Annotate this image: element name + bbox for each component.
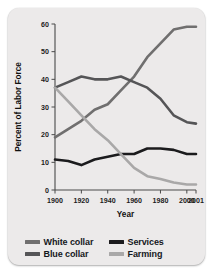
y-axis-title: Percent of Labor Force (14, 62, 23, 152)
legend-item-services[interactable]: Services (109, 237, 189, 247)
y-tick-label: 20 (41, 131, 49, 139)
series-line-services (55, 149, 196, 166)
y-tick-label: 60 (41, 21, 49, 29)
chart-legend: White collarServicesBlue collarFarming (8, 237, 205, 259)
legend-label: Farming (128, 249, 163, 259)
legend-item-white-collar[interactable]: White collar (25, 237, 109, 247)
line-swatch-icon (109, 252, 124, 255)
legend-row: Blue collarFarming (25, 249, 189, 259)
y-tick-label: 50 (41, 48, 49, 56)
series-line-white-collar (55, 27, 196, 138)
x-tick-label: 1900 (47, 197, 63, 205)
legend-label: Blue collar (44, 249, 89, 259)
y-tick-label: 30 (41, 104, 49, 112)
y-tick-label: 10 (41, 159, 49, 167)
y-tick-label: 40 (41, 76, 49, 84)
line-swatch-icon (25, 240, 40, 243)
legend-row: White collarServices (25, 237, 189, 247)
x-tick-label: 2001 (188, 197, 204, 205)
legend-item-blue-collar[interactable]: Blue collar (25, 249, 109, 259)
series-line-blue-collar (55, 77, 196, 124)
x-tick-label: 1960 (126, 197, 142, 205)
y-tick-label: 0 (45, 187, 49, 195)
x-tick-label: 1920 (73, 197, 89, 205)
legend-item-farming[interactable]: Farming (109, 249, 189, 259)
line-swatch-icon (25, 252, 40, 255)
series-line-farming (55, 88, 196, 185)
chart-card: 0102030405060190019201940196019802000200… (8, 8, 205, 265)
x-tick-label: 1980 (153, 197, 169, 205)
legend-label: Services (128, 237, 164, 247)
x-axis-title: Year (117, 210, 135, 218)
line-chart-plot: 0102030405060190019201940196019802000200… (8, 8, 205, 218)
legend-label: White collar (44, 237, 94, 247)
x-tick-label: 1940 (100, 197, 116, 205)
line-swatch-icon (109, 240, 124, 243)
